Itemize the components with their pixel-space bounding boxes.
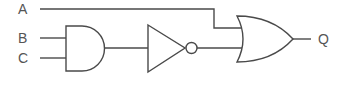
input-label-c: C [18, 50, 28, 66]
not-gate [148, 25, 185, 72]
or-gate [237, 16, 293, 62]
output-label-q: Q [318, 31, 329, 47]
input-label-b: B [18, 30, 27, 46]
wire-a [40, 9, 245, 28]
not-gate-bubble [186, 43, 197, 54]
logic-circuit-diagram: A B C Q [0, 0, 342, 85]
and-gate [66, 26, 105, 71]
input-label-a: A [18, 1, 28, 17]
